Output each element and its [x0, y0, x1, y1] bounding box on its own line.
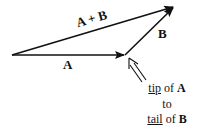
note-of: of [163, 112, 179, 126]
note-tip: tip [148, 81, 161, 95]
note-line-1: tip of A [138, 81, 196, 96]
note-of: of [161, 81, 177, 95]
note-b: B [179, 112, 187, 126]
note-tail: tail [147, 112, 162, 126]
note-a: A [177, 81, 186, 95]
double-arrow-icon [129, 58, 146, 82]
label-b: B [158, 26, 167, 42]
note-line-2: to [138, 97, 196, 112]
note-line-3: tail of B [138, 112, 196, 127]
label-a: A [63, 57, 72, 73]
